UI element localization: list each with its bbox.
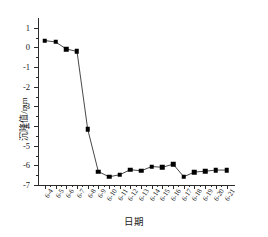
data-point-marker: [75, 49, 80, 54]
data-point-marker: [160, 165, 165, 170]
y-tick-minor: [36, 38, 38, 39]
data-point-marker: [139, 169, 144, 174]
x-tick-minor: [178, 185, 179, 187]
data-point-marker: [96, 169, 101, 174]
y-tick: [34, 28, 38, 29]
x-tick-minor: [61, 185, 62, 187]
x-tick-minor: [189, 185, 190, 187]
x-tick-minor: [211, 185, 212, 187]
y-tick-minor: [36, 116, 38, 117]
y-tick: [34, 185, 38, 186]
x-tick-label: 6-4: [44, 188, 55, 200]
data-point-marker: [182, 174, 187, 179]
x-tick: [45, 185, 46, 189]
y-tick: [34, 165, 38, 166]
x-tick-minor: [82, 185, 83, 187]
settlement-line-chart: 10-1-2-3-4-5-6-7 6-46-56-66-76-86-96-106…: [0, 0, 268, 237]
y-tick-minor: [36, 97, 38, 98]
x-tick-minor: [200, 185, 201, 187]
x-tick: [77, 185, 78, 189]
data-line: [45, 41, 227, 177]
data-point-marker: [53, 40, 58, 45]
x-tick: [109, 185, 110, 189]
data-point-marker: [224, 168, 229, 173]
data-point-marker: [117, 173, 122, 178]
x-tick-minor: [114, 185, 115, 187]
data-point-marker: [85, 127, 90, 132]
x-tick-label: 6-7: [76, 188, 87, 200]
x-tick-minor: [168, 185, 169, 187]
x-tick-minor: [146, 185, 147, 187]
x-tick-label: 6-21: [224, 188, 237, 203]
x-tick: [184, 185, 185, 189]
y-tick: [34, 146, 38, 147]
x-tick-minor: [221, 185, 222, 187]
y-tick-label: -5: [0, 141, 30, 150]
y-tick-minor: [36, 136, 38, 137]
y-tick: [34, 67, 38, 68]
x-tick-minor: [157, 185, 158, 187]
y-tick-label: 1: [0, 24, 30, 33]
y-tick-label: -7: [0, 181, 30, 190]
y-tick: [34, 87, 38, 88]
y-tick-label: -2: [0, 83, 30, 92]
x-tick-minor: [93, 185, 94, 187]
data-point-marker: [128, 167, 133, 172]
data-point-marker: [150, 164, 155, 169]
x-tick: [152, 185, 153, 189]
plot-area: [38, 18, 234, 185]
y-tick: [34, 126, 38, 127]
x-axis-title: 日期: [0, 214, 268, 228]
data-point-marker: [64, 47, 69, 52]
data-point-marker: [192, 170, 197, 175]
y-tick: [34, 47, 38, 48]
data-point-marker: [43, 38, 48, 43]
y-tick-minor: [36, 77, 38, 78]
x-tick-minor: [136, 185, 137, 187]
y-tick-label: 0: [0, 43, 30, 52]
y-tick: [34, 106, 38, 107]
x-tick: [216, 185, 217, 189]
y-tick-minor: [36, 156, 38, 157]
y-tick-label: -6: [0, 161, 30, 170]
data-point-marker: [214, 168, 219, 173]
x-tick-minor: [72, 185, 73, 187]
x-tick: [56, 185, 57, 189]
y-axis-title: 沉降值/mm: [17, 97, 30, 141]
y-tick-minor: [36, 175, 38, 176]
x-tick: [227, 185, 228, 189]
data-point-marker: [203, 169, 208, 174]
y-tick-label: -1: [0, 63, 30, 72]
x-tick: [88, 185, 89, 189]
x-tick-minor: [125, 185, 126, 187]
x-tick-minor: [104, 185, 105, 187]
data-point-marker: [107, 174, 112, 179]
y-tick-minor: [36, 57, 38, 58]
x-tick: [120, 185, 121, 189]
series-polyline: [38, 18, 234, 185]
x-tick-minor: [50, 185, 51, 187]
data-point-marker: [171, 162, 176, 167]
